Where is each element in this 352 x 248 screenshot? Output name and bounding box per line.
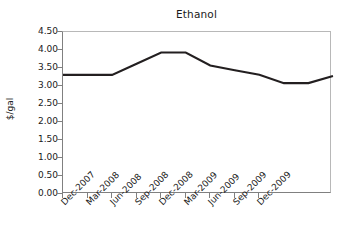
y-axis-tick-mark xyxy=(57,31,62,32)
y-axis-tick-mark xyxy=(57,121,62,122)
y-axis-tick-mark xyxy=(57,103,62,104)
y-axis-tick-label: 2.00 xyxy=(28,116,58,126)
plot-area xyxy=(62,31,331,193)
y-axis-tick-label: 0.50 xyxy=(28,170,58,180)
data-series-line xyxy=(63,32,332,194)
y-axis-tick-mark xyxy=(57,67,62,68)
y-axis-tick-labels: 0.000.501.001.502.002.503.003.504.004.50 xyxy=(24,31,58,193)
y-axis-tick-label: 1.00 xyxy=(28,152,58,162)
y-axis-tick-label: 3.50 xyxy=(28,62,58,72)
y-axis-label: $/gal xyxy=(5,86,15,132)
chart-title: Ethanol xyxy=(62,8,331,20)
y-axis-tick-label: 0.00 xyxy=(28,188,58,198)
y-axis-tick-mark xyxy=(57,157,62,158)
y-axis-tick-label: 2.50 xyxy=(28,98,58,108)
y-axis-tick-label: 4.50 xyxy=(28,26,58,36)
y-axis-tick-mark xyxy=(57,175,62,176)
y-axis-tick-label: 1.50 xyxy=(28,134,58,144)
y-axis-tick-mark xyxy=(57,85,62,86)
y-axis-tick-mark xyxy=(57,49,62,50)
y-axis-tick-mark xyxy=(57,139,62,140)
y-axis-tick-label: 4.00 xyxy=(28,44,58,54)
y-axis-tick-label: 3.00 xyxy=(28,80,58,90)
ethanol-price-chart: Ethanol $/gal 0.000.501.001.502.002.503.… xyxy=(0,0,352,248)
